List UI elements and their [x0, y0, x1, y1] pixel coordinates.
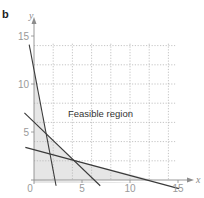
- x-axis-label: x: [195, 174, 201, 185]
- feasible-region-label: Feasible region: [68, 108, 133, 119]
- y-tick-label: 15: [18, 31, 30, 42]
- y-tick-label: 10: [18, 79, 30, 90]
- x-tick-label: 10: [124, 183, 136, 194]
- y-axis-label: y: [28, 10, 34, 21]
- y-tick-label: 5: [23, 127, 29, 138]
- x-tick-label: 15: [172, 183, 184, 194]
- x-tick-label: 5: [79, 183, 85, 194]
- x-tick-label: 0: [27, 183, 33, 194]
- x-axis-arrow-icon: [187, 178, 194, 183]
- feasible-region-chart: 51015051015xy Feasible region: [0, 0, 204, 198]
